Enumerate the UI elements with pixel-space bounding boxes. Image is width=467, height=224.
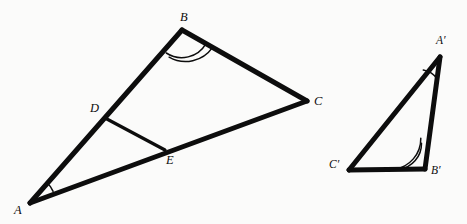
vertex-label-A-prime: A′ [436,35,446,47]
vertex-label-B-prime: B′ [431,165,441,177]
vertex-label-A: A [14,204,22,217]
vertex-label-D: D [90,102,99,115]
large-triangle-ABC [30,30,307,203]
vertex-label-E: E [166,154,174,167]
vertex-label-B: B [180,11,188,24]
vertex-label-C-prime: C′ [329,159,339,171]
angle-mark-B-prime [394,138,422,169]
segment-DE [105,118,165,150]
side-BC [182,30,307,101]
figure-canvas [0,0,467,224]
vertex-label-C: C [314,95,322,108]
small-triangle-A-prime-B-prime-C-prime [349,57,440,170]
side-B-prime-C-prime [349,169,425,170]
geometry-figure: A B C D E A′ B′ C′ [0,0,467,224]
